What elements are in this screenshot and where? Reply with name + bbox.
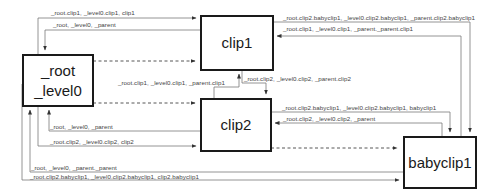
label-clip1-to-root: _root, _level0, _parent xyxy=(53,21,116,29)
label-root-to-clip1: _root.clip1, _level0.clip1, clip1 xyxy=(51,9,135,17)
node-clip1-label: clip1 xyxy=(222,33,253,53)
label-clip1-to-clip2: _root.clip2, _level0.clip2, _parent.clip… xyxy=(244,75,351,83)
label-root-to-babyclip1: _root.clip2.babyclip1, _level0.clip2.bab… xyxy=(30,173,199,181)
label-clip1-to-babyclip1: _root.clip2.babyclip1, _level0.clip2.bab… xyxy=(283,14,475,22)
node-clip2: clip2 xyxy=(200,98,272,152)
node-root-label: _root xyxy=(41,61,75,81)
node-babyclip1: babyclip1 xyxy=(403,136,477,189)
label-root-to-clip2: _root.clip2, _level0.clip2, clip2 xyxy=(50,138,134,146)
label-clip2-to-root: _root, _level0, _parent xyxy=(50,123,113,131)
node-babyclip1-label: babyclip1 xyxy=(408,153,471,173)
label-babyclip1-to-root: _root, _level0, _parent._parent xyxy=(31,164,117,172)
node-level0-label: _level0 xyxy=(34,81,82,101)
node-clip1: clip1 xyxy=(200,15,274,71)
label-babyclip1-to-clip1: _root.clip1, _level0.clip1, _parent._par… xyxy=(283,25,413,33)
label-clip2-to-babyclip1: _root.clip2.babyclip1, _level0.clip2.bab… xyxy=(282,104,436,112)
edge-clip1-to-root xyxy=(45,30,200,50)
label-babyclip1-to-clip2: _root.clip2, _level0.clip2, _parent xyxy=(283,115,375,123)
node-clip2-label: clip2 xyxy=(221,115,252,135)
edge-babyclip1-to-clip2 xyxy=(275,123,442,136)
node-root-level0: _root _level0 xyxy=(22,54,94,107)
label-clip2-to-clip1: _root.clip1, _level0.clip1, _parent.clip… xyxy=(118,79,225,87)
